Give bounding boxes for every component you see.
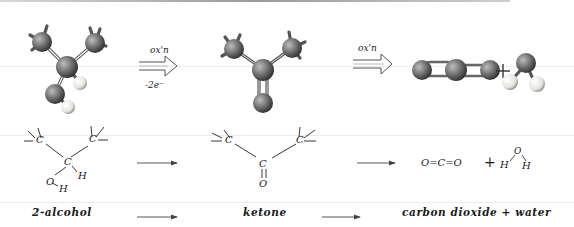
carbon-atom <box>85 33 105 53</box>
hydrogen-atom <box>502 74 518 90</box>
carbon-atom <box>445 59 467 81</box>
co2-formula: O=C=O <box>421 157 462 168</box>
oxygen-atom <box>45 84 65 104</box>
ketone-model <box>222 32 305 113</box>
alcohol-hydrogen: H <box>78 170 87 181</box>
products-plus: + <box>484 154 496 170</box>
hydrogen-atom <box>529 76 545 92</box>
oxygen-atom <box>412 60 432 80</box>
alcohol-oxygen: O <box>46 176 54 187</box>
oxygen-atom <box>480 60 500 80</box>
ketone-carbon-center: C <box>259 158 267 169</box>
alcohol-carbon-left: C <box>36 134 44 145</box>
water-oxygen: O <box>514 146 521 156</box>
alcohol-name: 2-alcohol <box>32 206 92 218</box>
hydrogen-atom <box>61 100 75 114</box>
water-hydrogen-right: H <box>522 160 531 171</box>
oxidation-arrow-1 <box>139 56 177 76</box>
arrow-2-top-label: ox'n <box>358 43 377 53</box>
ketone-name: ketone <box>243 206 287 218</box>
carbon-atom <box>32 32 52 52</box>
water-model <box>502 53 545 92</box>
arrow-1-bottom-label: -2e⁻ <box>145 80 164 90</box>
co2-model <box>412 59 500 81</box>
ketone-carbon-left: C <box>225 134 233 145</box>
alcohol-carbon-right: C <box>89 133 97 144</box>
alcohol-model <box>30 26 106 114</box>
oxygen-atom <box>516 53 536 73</box>
carbon-atom <box>56 56 78 78</box>
diagram-canvas <box>0 0 574 227</box>
carbon-atom <box>224 39 244 59</box>
alcohol-carbon-center: C <box>64 156 72 167</box>
oxidation-arrow-2 <box>353 54 392 74</box>
carbon-atom <box>282 38 302 58</box>
water-hydrogen-left: H <box>500 159 509 170</box>
hydrogen-atom <box>73 76 87 90</box>
ketone-oxygen: O <box>259 178 267 189</box>
alcohol-hydroxyl-hydrogen: H <box>59 183 68 194</box>
carbon-atom <box>252 59 274 81</box>
products-name: carbon dioxide + water <box>402 206 551 218</box>
ketone-carbon-right: C <box>296 134 304 145</box>
oxygen-atom <box>253 93 273 113</box>
arrow-1-top-label: ox'n <box>150 45 169 55</box>
